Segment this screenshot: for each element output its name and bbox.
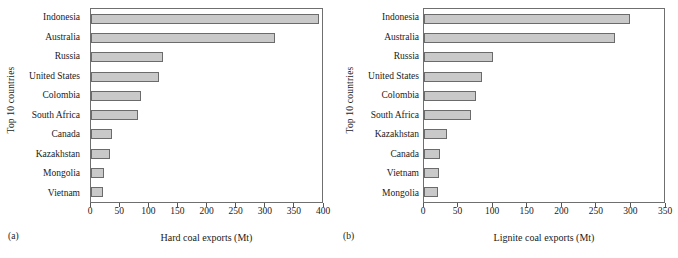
bar	[91, 129, 112, 139]
x-tick-label: 150	[520, 206, 534, 216]
bar	[91, 149, 110, 159]
bar-row	[424, 163, 664, 182]
bar	[91, 14, 319, 24]
x-tick-label: 350	[658, 206, 672, 216]
bar	[424, 110, 471, 120]
bar-row	[91, 9, 322, 28]
y-axis-label: Kazakhstan	[353, 125, 423, 145]
bar	[424, 52, 493, 62]
bar-row	[91, 67, 322, 86]
y-axis-label: Indonesia	[14, 8, 84, 28]
bar-row	[424, 48, 664, 67]
x-axis-tick-labels-b: 050100150200250300350	[423, 206, 665, 220]
y-axis-label: Canada	[353, 145, 423, 165]
x-axis-title-b: Lignite coal exports (Mt)	[423, 229, 665, 245]
bar	[424, 33, 615, 43]
panel-b: Top 10 countries IndonesiaAustraliaRussi…	[339, 0, 678, 258]
x-tick-label: 150	[170, 206, 184, 216]
bar-row	[424, 105, 664, 124]
bar-row	[424, 67, 664, 86]
bar	[91, 91, 141, 101]
bar	[424, 129, 447, 139]
x-tick-label: 250	[589, 206, 603, 216]
x-tick-label: 250	[229, 206, 243, 216]
bar	[91, 187, 103, 197]
x-tick-label: 400	[316, 206, 330, 216]
bar	[424, 14, 630, 24]
bar	[91, 168, 104, 178]
y-axis-label: Russia	[14, 47, 84, 67]
bar-row	[91, 28, 322, 47]
bar-row	[424, 28, 664, 47]
y-axis-label: United States	[14, 67, 84, 87]
x-axis-title-a-text: Hard coal exports (Mt)	[161, 232, 253, 243]
x-axis-tick-labels-a: 050100150200250300350400	[90, 206, 323, 220]
bar-series-b	[424, 9, 664, 202]
bar-row	[424, 144, 664, 163]
x-tick-label: 100	[485, 206, 499, 216]
x-tick-label: 0	[88, 206, 93, 216]
y-axis-label: Colombia	[353, 86, 423, 106]
y-axis-label: Mongolia	[353, 184, 423, 204]
y-axis-label: Indonesia	[353, 8, 423, 28]
bar	[424, 91, 476, 101]
bar-row	[91, 163, 322, 182]
y-axis-category-labels-a: IndonesiaAustraliaRussiaUnited StatesCol…	[14, 8, 84, 203]
x-tick-label: 350	[287, 206, 301, 216]
plot-area-a	[90, 8, 323, 203]
bar-row	[424, 9, 664, 28]
x-tick-label: 300	[258, 206, 272, 216]
x-tick-label: 200	[554, 206, 568, 216]
bar	[424, 149, 440, 159]
bar-row	[424, 86, 664, 105]
x-tick-label: 200	[199, 206, 213, 216]
panel-a: Top 10 countries IndonesiaAustraliaRussi…	[0, 0, 339, 258]
y-axis-category-labels-b: IndonesiaAustraliaRussiaUnited StatesCol…	[353, 8, 423, 203]
bar	[424, 187, 438, 197]
y-axis-label: Canada	[14, 125, 84, 145]
bar-row	[91, 125, 322, 144]
bar	[91, 110, 138, 120]
bar-row	[91, 183, 322, 202]
y-axis-label: Australia	[353, 28, 423, 48]
bar	[424, 168, 439, 178]
plot-area-b	[423, 8, 665, 203]
bar	[91, 72, 159, 82]
bar-series-a	[91, 9, 322, 202]
bar-row	[91, 86, 322, 105]
bar-row	[91, 105, 322, 124]
y-axis-label: Mongolia	[14, 164, 84, 184]
panel-label-a: (a)	[8, 231, 19, 241]
figure-two-panel-bar-charts: Top 10 countries IndonesiaAustraliaRussi…	[0, 0, 678, 258]
y-axis-label: Colombia	[14, 86, 84, 106]
y-axis-label: United States	[353, 67, 423, 87]
bar	[91, 52, 163, 62]
panel-label-b: (b)	[343, 231, 354, 241]
x-tick-label: 50	[114, 206, 124, 216]
x-axis-title-b-text: Lignite coal exports (Mt)	[494, 232, 595, 243]
y-axis-label: South Africa	[14, 106, 84, 126]
x-tick-label: 50	[453, 206, 463, 216]
bar-row	[91, 144, 322, 163]
y-axis-label: Russia	[353, 47, 423, 67]
bar	[424, 72, 482, 82]
bar	[91, 33, 275, 43]
y-axis-label: Vietnam	[14, 184, 84, 204]
x-axis-title-a: Hard coal exports (Mt)	[90, 229, 323, 245]
x-tick-label: 0	[421, 206, 426, 216]
bar-row	[424, 125, 664, 144]
y-axis-label: South Africa	[353, 106, 423, 126]
y-axis-label: Australia	[14, 28, 84, 48]
y-axis-label: Kazakhstan	[14, 145, 84, 165]
x-tick-label: 100	[141, 206, 155, 216]
bar-row	[91, 48, 322, 67]
x-tick-label: 300	[623, 206, 637, 216]
bar-row	[424, 183, 664, 202]
y-axis-label: Vietnam	[353, 164, 423, 184]
